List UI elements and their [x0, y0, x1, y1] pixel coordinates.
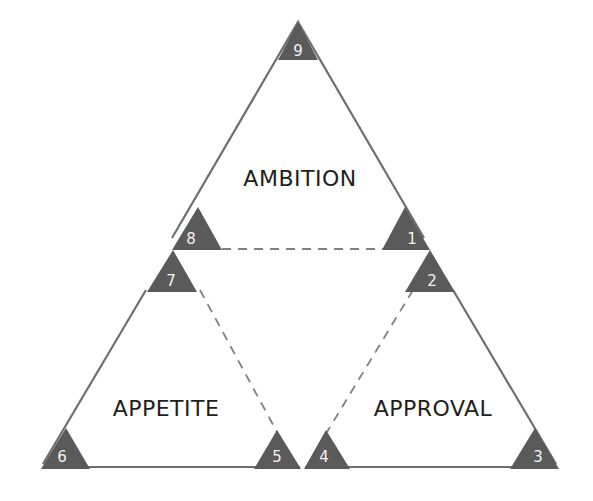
marker-7-label: 7: [166, 272, 176, 290]
marker-8-label: 8: [186, 230, 196, 248]
ambition-label: AMBITION: [243, 166, 356, 191]
appetite-label: APPETITE: [113, 396, 220, 421]
marker-6-label: 6: [57, 448, 67, 466]
marker-2: 2: [405, 250, 455, 292]
marker-8: 8: [172, 207, 222, 250]
marker-5: 5: [254, 430, 301, 469]
marker-6: 6: [41, 428, 90, 469]
approval-section: [305, 290, 556, 467]
marker-7: 7: [147, 250, 197, 292]
marker-2-label: 2: [427, 272, 437, 290]
approval-label: APPROVAL: [374, 396, 493, 421]
triangle-diagram: 9 8 1 7 2 6 5 4 3 AMBITION APPETITE APPR…: [0, 0, 593, 501]
marker-5-label: 5: [272, 448, 282, 466]
marker-9: 9: [278, 22, 318, 60]
appetite-section: [43, 290, 300, 467]
marker-1: 1: [382, 207, 430, 250]
marker-1-label: 1: [407, 230, 417, 248]
marker-3: 3: [510, 428, 559, 469]
marker-3-label: 3: [533, 448, 543, 466]
marker-4: 4: [304, 430, 350, 469]
marker-4-label: 4: [319, 448, 329, 466]
marker-9-label: 9: [293, 42, 303, 60]
